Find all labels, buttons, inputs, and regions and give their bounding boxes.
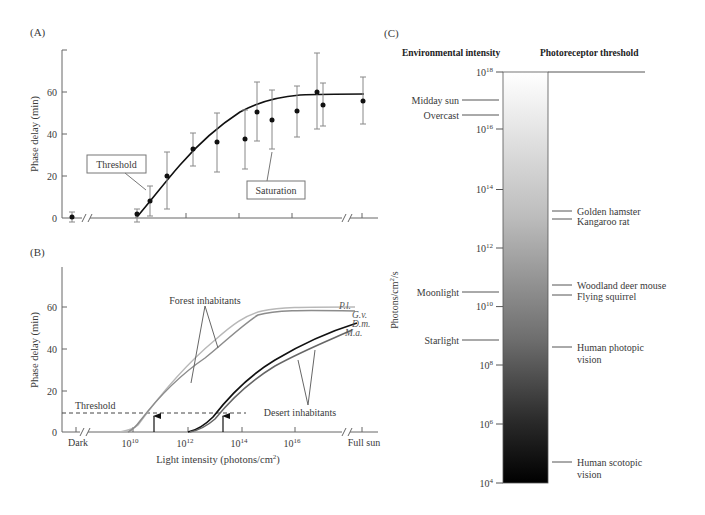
- a-ytick-20: 20: [47, 171, 57, 182]
- c-thr-kangaroo: Kangaroo rat: [577, 216, 630, 227]
- panel-c: (C) Environmental intensity Photorecepto…: [384, 27, 667, 489]
- b-ytick-0: 0: [52, 427, 57, 438]
- a-saturation-label: Saturation: [255, 185, 296, 196]
- c-thr-photopic-2: vision: [577, 354, 601, 365]
- c-tick-1e14: 1014: [476, 183, 494, 195]
- a-threshold-label: Threshold: [96, 159, 137, 170]
- b-ylabel: Phase delay (min): [29, 312, 41, 388]
- figure: (A) 0 20 40 60 Phase delay (min): [0, 0, 705, 515]
- panel-b: (B) 0 20 40 60 Phase delay (min) Dark 10…: [29, 246, 380, 466]
- c-tick-1e12: 1012: [476, 242, 494, 254]
- c-ylabel: Photons/cm2/s: [388, 271, 400, 329]
- c-env-midday: Midday sun: [412, 95, 460, 106]
- b-ytick-60: 60: [47, 302, 57, 313]
- c-tick-1e6: 106: [480, 418, 494, 430]
- panel-c-label: (C): [384, 27, 399, 40]
- c-thr-squirrel: Flying squirrel: [577, 291, 636, 302]
- c-env-moonlight: Moonlight: [417, 287, 459, 298]
- c-tick-1e10: 1010: [476, 300, 494, 312]
- a-ytick-40: 40: [47, 129, 57, 140]
- c-thr-photopic: Human photopic: [577, 342, 644, 353]
- panel-b-label: (B): [30, 246, 45, 259]
- c-thr-scotopic-2: vision: [577, 469, 601, 480]
- a-ylabel: Phase delay (min): [29, 96, 41, 172]
- b-xtick-1e12: 1012: [177, 437, 195, 449]
- a-ytick-60: 60: [47, 87, 57, 98]
- b-xtick-1e10: 1010: [122, 437, 140, 449]
- c-left-header: Environmental intensity: [402, 48, 501, 58]
- c-tick-1e4: 104: [480, 477, 494, 489]
- c-tick-1e8: 108: [480, 359, 494, 371]
- c-env-starlight: Starlight: [425, 335, 460, 346]
- c-thr-scotopic: Human scotopic: [577, 457, 643, 468]
- b-xtick-1e14: 1014: [231, 437, 249, 449]
- c-env-overcast: Overcast: [423, 110, 459, 121]
- a-ytick-0: 0: [52, 213, 57, 224]
- c-tick-1e16: 1016: [476, 123, 494, 135]
- b-xtick-fullsun: Full sun: [348, 437, 381, 448]
- c-intensity-bar: [503, 72, 548, 483]
- panel-a-label: (A): [30, 26, 46, 39]
- b-desert-label: Desert inhabitants: [264, 407, 337, 418]
- b-threshold-label: Threshold: [75, 400, 116, 411]
- b-xlabel: Light intensity (photons/cm2): [156, 453, 280, 466]
- b-forest-label: Forest inhabitants: [169, 295, 240, 306]
- a-error-bars: [69, 53, 366, 222]
- b-label-pl: P.l.: [338, 301, 351, 311]
- b-ytick-40: 40: [47, 344, 57, 355]
- panel-a: (A) 0 20 40 60 Phase delay (min): [29, 26, 378, 224]
- b-xtick-dark: Dark: [68, 437, 88, 448]
- c-right-header: Photoreceptor threshold: [540, 48, 639, 58]
- b-ytick-20: 20: [47, 386, 57, 397]
- b-label-ma: M.a.: [344, 328, 362, 338]
- c-tick-1e18: 1018: [476, 66, 494, 78]
- b-xtick-1e16: 1016: [284, 437, 302, 449]
- c-thr-deermouse: Woodland deer mouse: [577, 280, 667, 291]
